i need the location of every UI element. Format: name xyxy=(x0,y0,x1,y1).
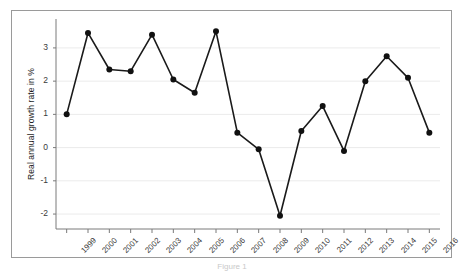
chart-frame: Real annual growth rate in % 3210-1-2 19… xyxy=(11,10,452,258)
figure-caption: Figure 1 xyxy=(0,262,464,271)
line-chart-plot xyxy=(12,11,453,259)
y-tick-label: 2 xyxy=(28,75,48,85)
data-point xyxy=(320,103,326,109)
data-point xyxy=(405,75,411,81)
data-point xyxy=(256,146,262,152)
data-point xyxy=(298,128,304,134)
data-point xyxy=(149,32,155,38)
data-point xyxy=(64,111,70,117)
y-tick-label: -1 xyxy=(28,175,48,185)
y-tick-label: -2 xyxy=(28,208,48,218)
data-point xyxy=(128,68,134,74)
data-point xyxy=(85,30,91,36)
data-point xyxy=(106,67,112,73)
x-tick-marks xyxy=(67,229,430,233)
data-point xyxy=(213,28,219,34)
data-point xyxy=(170,76,176,82)
y-tick-label: 0 xyxy=(28,142,48,152)
data-point xyxy=(277,213,283,219)
data-point xyxy=(192,90,198,96)
data-point xyxy=(384,53,390,59)
y-tick-label: 3 xyxy=(28,42,48,52)
chart-figure: Real annual growth rate in % 3210-1-2 19… xyxy=(0,0,464,275)
y-tick-label: 1 xyxy=(28,108,48,118)
data-point xyxy=(362,78,368,84)
axes-group xyxy=(56,19,440,229)
data-point xyxy=(426,130,432,136)
gridlines-group xyxy=(56,48,440,214)
data-point xyxy=(341,148,347,154)
data-series-line xyxy=(67,31,430,215)
data-point-markers xyxy=(64,28,433,218)
data-point xyxy=(234,130,240,136)
